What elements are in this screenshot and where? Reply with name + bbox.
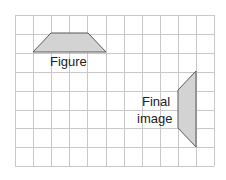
final-image-label-line1: Final	[142, 95, 170, 108]
final-image-label-line2: image	[137, 112, 172, 125]
figure-label: Figure	[50, 55, 87, 68]
grid-diagram	[0, 0, 226, 180]
final-image-trapezoid	[178, 71, 196, 147]
figure-trapezoid	[33, 33, 106, 52]
